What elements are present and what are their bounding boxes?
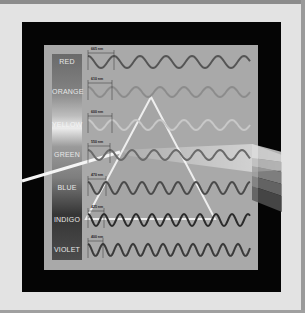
band-label-violet: VIOLET	[52, 246, 82, 253]
band-label-orange: ORANGE	[52, 88, 82, 95]
wavelength-label-red: 665 nm	[91, 47, 103, 51]
wavelength-label-yellow: 600 nm	[91, 110, 103, 114]
wavelength-label-orange: 610 nm	[91, 77, 103, 81]
band-label-indigo: INDIGO	[52, 216, 82, 223]
spectrum-diagram	[0, 0, 305, 313]
band-label-green: GREEN	[52, 151, 82, 158]
wavelength-label-green: 550 nm	[91, 140, 103, 144]
wavelength-label-indigo: 425 nm	[91, 205, 103, 209]
band-label-yellow: YELLOW	[52, 121, 82, 128]
band-label-red: RED	[52, 58, 82, 65]
wavelength-label-blue: 470 nm	[91, 173, 103, 177]
band-label-blue: BLUE	[52, 184, 82, 191]
wavelength-label-violet: 400 nm	[91, 235, 103, 239]
